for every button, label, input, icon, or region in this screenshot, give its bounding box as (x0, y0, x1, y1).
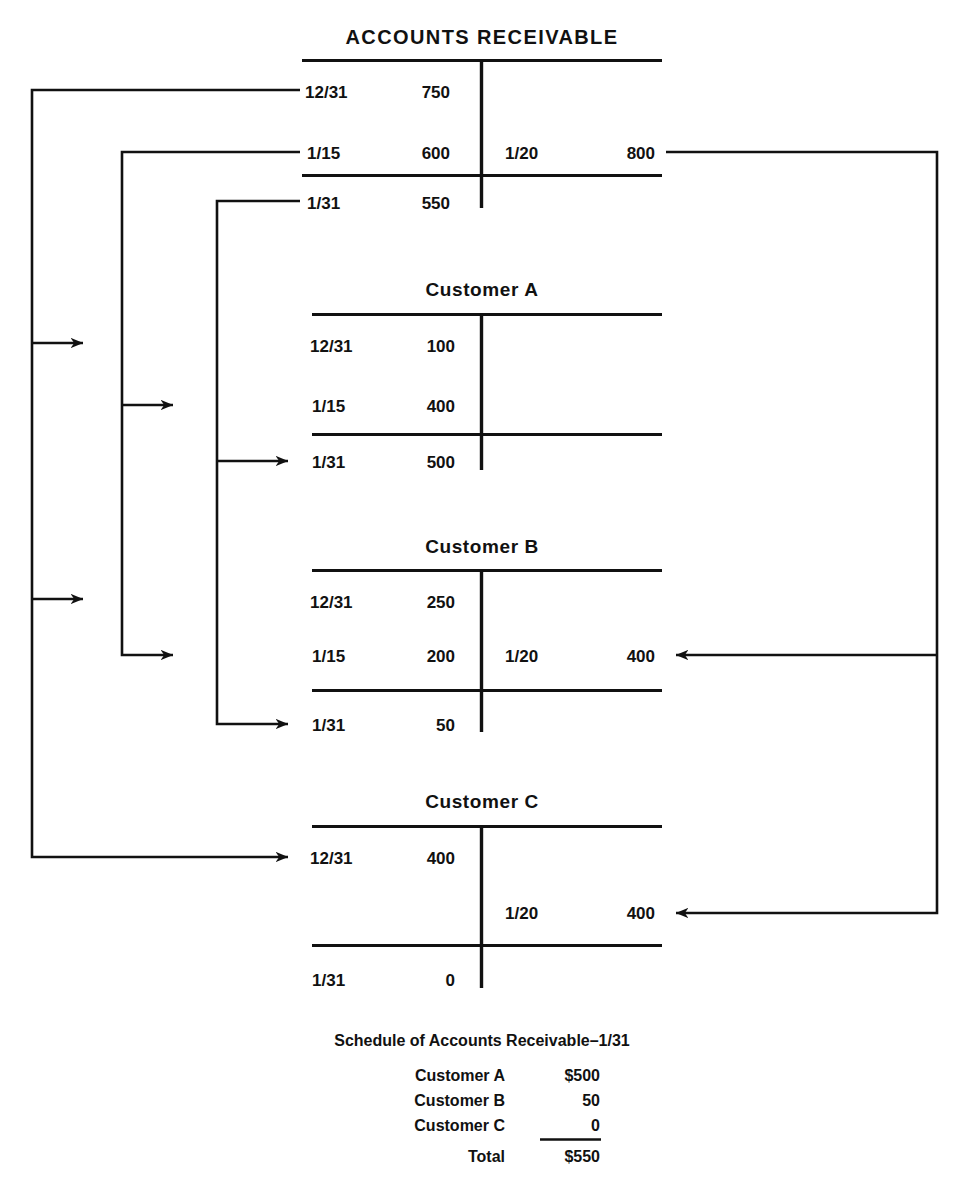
debit-amount: 400 (427, 849, 455, 868)
account-accounts-receivable: ACCOUNTS RECEIVABLE 12/31 750 1/15 600 1… (302, 26, 662, 213)
schedule-title: Schedule of Accounts Receivable–1/31 (334, 1032, 630, 1049)
credit-amount: 800 (627, 144, 655, 163)
debit-balance-amount: 0 (446, 971, 455, 990)
debit-balance-amount: 50 (436, 716, 455, 735)
connector-ar-115-to-customer-b-115 (122, 152, 300, 655)
account-title-customer-c: Customer C (425, 791, 539, 812)
account-title-customer-a: Customer A (426, 279, 539, 300)
credit-amount: 400 (627, 647, 655, 666)
debit-amount: 750 (422, 83, 450, 102)
credit-date: 1/20 (505, 144, 538, 163)
account-title-accounts-receivable: ACCOUNTS RECEIVABLE (346, 26, 619, 48)
debit-date: 1/15 (312, 397, 345, 416)
debit-amount: 600 (422, 144, 450, 163)
credit-amount: 400 (627, 904, 655, 923)
schedule-row-value: 50 (582, 1092, 600, 1109)
credit-date: 1/20 (505, 647, 538, 666)
connector-group-left (32, 90, 300, 857)
debit-amount: 400 (427, 397, 455, 416)
diagram-page: ACCOUNTS RECEIVABLE 12/31 750 1/15 600 1… (0, 0, 970, 1191)
connector-ar-120-to-customer-c-120 (666, 152, 937, 913)
account-title-customer-b: Customer B (425, 536, 539, 557)
debit-amount: 250 (427, 593, 455, 612)
debit-balance-amount: 500 (427, 453, 455, 472)
schedule-total-value: $550 (564, 1148, 600, 1165)
debit-amount: 100 (427, 337, 455, 356)
debit-date: 12/31 (310, 337, 353, 356)
account-customer-a: Customer A 12/31 100 1/15 400 1/31 500 (310, 279, 662, 472)
schedule-row-label: Customer A (415, 1067, 506, 1084)
debit-date: 12/31 (310, 849, 353, 868)
account-customer-b: Customer B 12/31 250 1/15 200 1/31 50 1/… (310, 536, 662, 735)
schedule-row-value: 0 (591, 1117, 600, 1134)
debit-date: 12/31 (305, 83, 348, 102)
debit-date: 1/15 (312, 647, 345, 666)
schedule-row-value: $500 (564, 1067, 600, 1084)
debit-balance-date: 1/31 (312, 716, 345, 735)
schedule-of-accounts-receivable: Schedule of Accounts Receivable–1/31 Cus… (334, 1032, 630, 1165)
debit-date: 12/31 (310, 593, 353, 612)
debit-amount: 200 (427, 647, 455, 666)
connector-group-right (666, 152, 937, 913)
connector-ar-131-to-customer-b-131 (217, 201, 300, 724)
connector-ar-1231-to-customer-c (32, 90, 300, 857)
schedule-total-label: Total (468, 1148, 505, 1165)
debit-date: 1/15 (307, 144, 340, 163)
credit-date: 1/20 (505, 904, 538, 923)
schedule-row-label: Customer B (414, 1092, 505, 1109)
t-account-diagram: ACCOUNTS RECEIVABLE 12/31 750 1/15 600 1… (0, 0, 970, 1191)
account-customer-c: Customer C 12/31 400 1/31 0 1/20 400 (310, 791, 662, 990)
debit-balance-date: 1/31 (312, 971, 345, 990)
debit-balance-amount: 550 (422, 194, 450, 213)
debit-balance-date: 1/31 (307, 194, 340, 213)
debit-balance-date: 1/31 (312, 453, 345, 472)
schedule-row-label: Customer C (414, 1117, 505, 1134)
